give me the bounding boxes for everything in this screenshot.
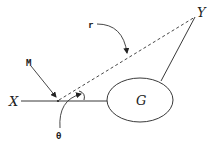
label-m: M [26, 58, 32, 68]
label-x: X [8, 94, 19, 109]
theta-pointer-arrow [60, 94, 81, 128]
label-theta: θ [56, 131, 61, 141]
angle-arc-icon [79, 91, 84, 100]
connector-g-y [161, 17, 195, 81]
r-pointer-arrow [97, 24, 127, 53]
point-m [57, 100, 59, 102]
m-pointer-arrow [31, 66, 56, 97]
label-y: Y [197, 5, 207, 20]
radius-line-r [59, 17, 195, 100]
label-r: r [88, 20, 94, 30]
label-g: G [136, 93, 146, 108]
diagram-canvas: X Y G M r θ [0, 0, 209, 145]
